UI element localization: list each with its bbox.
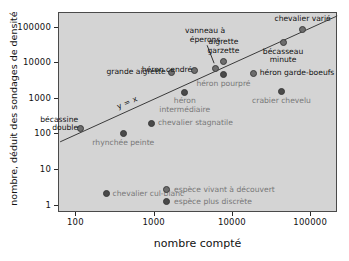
data-point-label: bécasseau minute — [223, 48, 343, 65]
x-axis-title: nombre compté — [58, 237, 337, 250]
y-axis-title: nombre, déduit des sondages de densité — [8, 9, 19, 209]
legend-label: espèce plus discrète — [174, 197, 252, 206]
data-point-label: héron garde-boeufs — [260, 69, 335, 78]
data-point-label: chevalier varié — [243, 15, 349, 24]
legend-item: espèce vivant à découvert — [163, 184, 275, 194]
legend-label: espèce vivant à découvert — [174, 185, 275, 194]
scatter-chart-figure: y = x 100100010000100000 110100100010000… — [0, 0, 349, 261]
legend-marker-icon — [163, 198, 170, 205]
data-point-label: héron pourpré — [163, 80, 283, 89]
data-point-label: crabier chevelu — [222, 97, 342, 106]
legend: espèce vivant à découvertespèce plus dis… — [163, 184, 275, 208]
legend-marker-icon — [163, 186, 170, 193]
legend-item: espèce plus discrète — [163, 196, 275, 206]
